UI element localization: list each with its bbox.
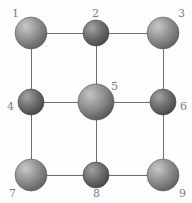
node-label-9: 9 — [179, 188, 186, 199]
graph-node-6[interactable] — [150, 89, 176, 115]
node-label-5: 5 — [111, 81, 118, 92]
graph-node-7[interactable] — [15, 159, 47, 191]
graph-node-5[interactable] — [78, 84, 114, 120]
node-label-8: 8 — [93, 188, 100, 199]
graph-svg — [0, 0, 192, 203]
graph-node-2[interactable] — [83, 20, 109, 46]
node-label-7: 7 — [9, 188, 16, 199]
node-label-1: 1 — [12, 8, 19, 19]
graph-node-3[interactable] — [147, 17, 179, 49]
node-layer — [15, 17, 179, 191]
graph-node-4[interactable] — [18, 89, 44, 115]
node-label-4: 4 — [7, 101, 14, 112]
node-label-3: 3 — [178, 8, 185, 19]
graph-node-8[interactable] — [83, 162, 109, 188]
graph-node-1[interactable] — [15, 17, 47, 49]
node-label-6: 6 — [180, 101, 187, 112]
diagram-canvas: 123456789 — [0, 0, 192, 203]
node-label-2: 2 — [92, 8, 99, 19]
graph-node-9[interactable] — [147, 159, 179, 191]
